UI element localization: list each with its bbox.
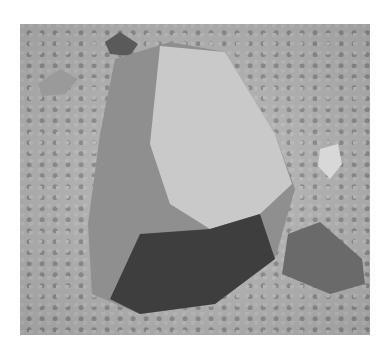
rock-top-face (150, 46, 292, 229)
photograph (20, 24, 370, 335)
stone-right-small (318, 144, 342, 179)
stone-right-large (282, 222, 365, 294)
stone-top (105, 32, 138, 56)
rock-illustration (20, 24, 370, 335)
stone-left (38, 69, 78, 96)
